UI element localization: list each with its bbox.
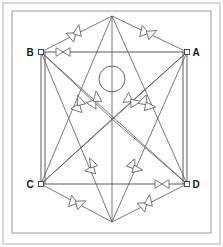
vertex-label-D: D <box>192 179 199 190</box>
inner-border-rect <box>12 11 211 233</box>
vertex-label-B: B <box>26 47 33 58</box>
vertex-node-C[interactable] <box>39 182 44 187</box>
vertex-node-B[interactable] <box>39 50 44 55</box>
diagram-svg: ABCD <box>0 0 223 247</box>
marker-bowtie-bottom-edge-right-triangle <box>162 180 169 189</box>
marker-arrowpair-mid-left-outer <box>69 95 88 115</box>
edge-T-D <box>112 16 187 184</box>
marker-bowtie-bottom-edge-left-triangle <box>155 180 162 189</box>
marker-bowtie-bottom-edge <box>155 180 169 189</box>
vertex-node-A[interactable] <box>185 50 190 55</box>
marker-bowtie-top-edge-right-triangle <box>63 48 70 57</box>
diagram-canvas: ABCD <box>0 0 223 247</box>
edge-U-B <box>41 52 112 222</box>
marker-arrowpair-lower-right <box>136 195 155 214</box>
edges-layer <box>41 16 187 222</box>
marker-arrow-lower-mid-right <box>125 158 143 176</box>
marker-bowtie-top-edge <box>56 48 70 57</box>
vertex-label-C: C <box>26 179 33 190</box>
marker-arrowpair-mid-right-outer <box>136 94 155 114</box>
vertex-label-A: A <box>192 47 199 58</box>
marker-arrowpair-lower-left <box>66 194 86 213</box>
vertex-node-D[interactable] <box>185 182 190 187</box>
marker-arrowpair-upper-right <box>137 24 156 42</box>
marker-arrowpair-upper-left <box>65 25 84 44</box>
marker-bowtie-top-edge-left-triangle <box>56 48 63 57</box>
